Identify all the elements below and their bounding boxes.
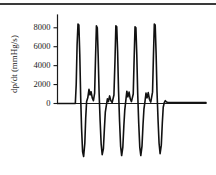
dpdt-waveform-chart: 02000400060008000 dp/dt (mmHg/s) xyxy=(0,0,216,175)
y-tick-label-0: 0 xyxy=(46,98,50,108)
y-axis-tick-labels: 02000400060008000 xyxy=(34,22,51,108)
figure-panel: 02000400060008000 dp/dt (mmHg/s) xyxy=(0,0,216,175)
y-tick-label-6000: 6000 xyxy=(34,41,51,51)
dpdt-trace-line xyxy=(58,24,207,157)
y-axis: 02000400060008000 xyxy=(34,15,207,108)
y-tick-label-4000: 4000 xyxy=(34,60,51,70)
y-tick-label-8000: 8000 xyxy=(34,22,51,32)
y-tick-label-2000: 2000 xyxy=(34,79,51,89)
y-axis-title: dp/dt (mmHg/s) xyxy=(9,35,19,93)
